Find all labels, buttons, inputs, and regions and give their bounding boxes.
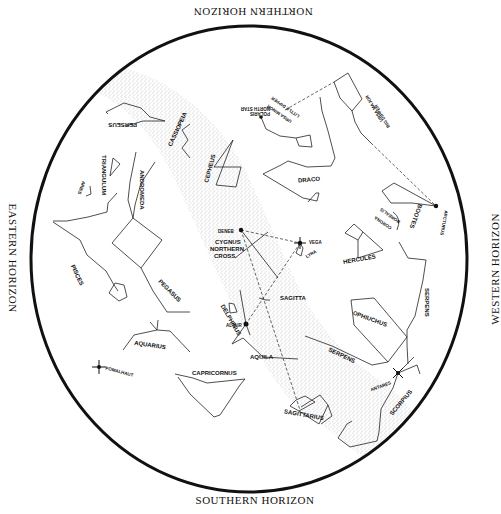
deneb-label: DENEB	[218, 229, 235, 234]
triangulum-figure	[110, 158, 120, 176]
bootes-figure	[382, 183, 436, 206]
antares-star	[393, 368, 403, 378]
arcturus-star	[434, 204, 438, 208]
draco-label: DRACO	[298, 176, 321, 184]
sagitta-label: SAGITTA	[280, 295, 307, 301]
aquila-label: AQUILA	[250, 354, 274, 360]
pisces-figure-east	[53, 193, 117, 221]
aquarius-label: AQUARIUS	[134, 340, 167, 350]
fomalhaut-star	[92, 360, 106, 374]
ophiuchus-label: OPHIUCHUS	[352, 310, 388, 328]
ursa-major-figure	[334, 73, 362, 111]
andromeda-label: ANDROMEDA	[139, 170, 145, 210]
pisces-label: PISCES	[70, 264, 85, 286]
hercules-label: HERCULES	[343, 253, 377, 265]
lyra-figure	[294, 237, 306, 256]
aries-label: ARIES	[77, 180, 86, 195]
bootes-label: BOOTES	[409, 203, 423, 229]
cygnus-label: CYGNUS	[215, 239, 241, 245]
north-star-label: NORTH STAR	[240, 106, 270, 111]
aries-figure	[86, 186, 91, 196]
vega-label: VEGA	[309, 240, 323, 245]
northern-cross-label: NORTHERN	[210, 246, 244, 252]
hercules-figure	[345, 224, 363, 240]
serpens-caput-figure	[399, 242, 426, 364]
capricornus-label: CAPRICORNUS	[192, 370, 237, 376]
ophiuchus-figure	[351, 298, 407, 362]
fomalhaut-label: FOMALHAUT	[105, 366, 134, 378]
altair-label: ALTAIR	[226, 323, 243, 328]
serpens-head-label: SERPENS	[424, 288, 430, 317]
pegasus-label: PEGASUS	[157, 278, 182, 303]
arcturus-label: ARCTURUS	[439, 210, 448, 236]
northern-cross-label-2: CROSS	[214, 253, 235, 259]
perseus-label: PERSEUS	[108, 122, 137, 128]
pegasus-figure	[112, 218, 162, 268]
capricornus-figure	[175, 374, 245, 417]
lyra-label: LYRA	[305, 248, 318, 259]
triangulum-label: TRIANGULUM	[101, 155, 107, 195]
